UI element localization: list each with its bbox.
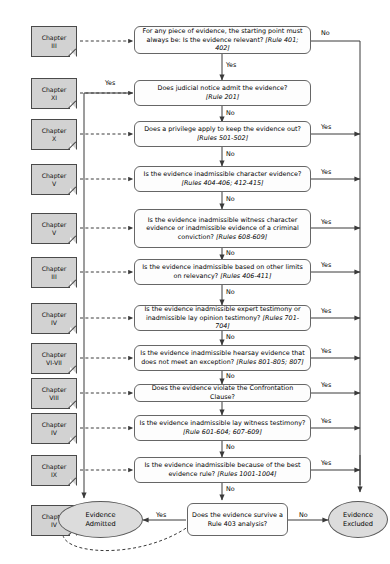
page-fold-edge-icon bbox=[68, 325, 77, 334]
edge-label-no-lay-witness: No bbox=[226, 443, 235, 451]
edge-label-no-character-evidence: No bbox=[226, 195, 235, 203]
decision-text: Does the evidence violate the Confrontat… bbox=[152, 384, 294, 401]
chapter-note-ch-10-privilege[interactable]: Chapter X bbox=[31, 119, 77, 150]
decision-character-evidence[interactable]: Is the evidence inadmissible character e… bbox=[134, 166, 311, 192]
chapter-note-ch-3-relevance[interactable]: Chapter III bbox=[31, 26, 77, 57]
chapter-label-line1: Chapter bbox=[42, 463, 67, 471]
decision-rule: [Rule 601-604; 607-609] bbox=[183, 428, 262, 436]
yes-exclusion-branches bbox=[311, 41, 360, 492]
chapter-note-ch-4-lay[interactable]: Chapter IV bbox=[31, 413, 77, 444]
terminal-label-line1: Evidence bbox=[85, 511, 115, 519]
chapter-label-line2: IX bbox=[51, 471, 57, 479]
chapter-label-line1: Chapter bbox=[42, 221, 67, 229]
decision-rule: [Rules 501-502] bbox=[197, 134, 248, 142]
edge-label-no-expert-opinion: No bbox=[226, 333, 235, 341]
edge-label-yes-character-evidence: Yes bbox=[321, 168, 331, 176]
chapter-note-ch-9-best[interactable]: Chapter IX bbox=[31, 455, 77, 486]
edge-label-yes-expert-opinion: Yes bbox=[321, 307, 331, 315]
terminal-evidence-admitted[interactable]: Evidence Admitted bbox=[58, 501, 143, 538]
flowchart-canvas: Chapter III Chapter XI Chapter X Chapter… bbox=[0, 0, 390, 564]
decision-text: Is the evidence inadmissible character e… bbox=[144, 170, 302, 178]
chapter-label-line2: IV bbox=[51, 319, 57, 327]
yes-admission-branch bbox=[84, 93, 133, 498]
edge-label-no-witness-character: No bbox=[226, 249, 235, 257]
decision-confrontation-clause[interactable]: Does the evidence violate the Confrontat… bbox=[134, 384, 311, 402]
chapter-label-line2: IV bbox=[51, 521, 57, 529]
decision-relevance[interactable]: For any piece of evidence, the starting … bbox=[134, 26, 311, 54]
decision-hearsay[interactable]: Is the evidence inadmissible hearsay evi… bbox=[134, 345, 311, 371]
chapter-label-line2: III bbox=[51, 42, 56, 50]
edge-label-yes-other-relevancy: Yes bbox=[321, 261, 331, 269]
edge-label-yes-relevance: Yes bbox=[226, 61, 236, 69]
edge-label-no-privilege: No bbox=[226, 150, 235, 158]
edge-label-yes-witness-character: Yes bbox=[321, 218, 331, 226]
chapter-label-line1: Chapter bbox=[42, 386, 67, 394]
chapter-label-line2: VI-VII bbox=[46, 359, 62, 367]
page-fold-edge-icon bbox=[68, 141, 77, 150]
edge-label-no-best-evidence: No bbox=[226, 485, 235, 493]
chapter-label-line2: IV bbox=[51, 429, 57, 437]
chapter-note-ch-5-character[interactable]: Chapter V bbox=[31, 164, 77, 195]
decision-witness-character[interactable]: Is the evidence inadmissible witness cha… bbox=[134, 209, 311, 248]
page-fold-edge-icon bbox=[68, 186, 77, 195]
decision-judicial-notice[interactable]: Does judicial notice admit the evidence?… bbox=[134, 80, 311, 106]
chapter-label-line2: V bbox=[52, 229, 56, 237]
page-fold-edge-icon bbox=[68, 477, 77, 486]
chapter-note-ch-5-witness[interactable]: Chapter V bbox=[31, 213, 77, 244]
edge-label-no-relevance: No bbox=[321, 29, 330, 37]
chapter-note-ch-8-confront[interactable]: Chapter VIII bbox=[31, 378, 77, 409]
decision-other-relevancy-limits[interactable]: Is the evidence inadmissible based on ot… bbox=[134, 259, 311, 285]
decision-privilege[interactable]: Does a privilege apply to keep the evide… bbox=[134, 121, 311, 147]
chapter-label-line2: XI bbox=[51, 94, 57, 102]
chapter-label-line1: Chapter bbox=[42, 311, 67, 319]
edge-label-yes-hearsay: Yes bbox=[321, 347, 331, 355]
edge-label-yes-rule403: Yes bbox=[156, 511, 166, 519]
chapter-note-ch-4-expert[interactable]: Chapter IV bbox=[31, 303, 77, 334]
page-fold-edge-icon bbox=[68, 48, 77, 57]
decision-text: Is the evidence inadmissible lay witness… bbox=[140, 419, 306, 427]
chapter-label-line2: X bbox=[52, 135, 56, 143]
decision-rule-403[interactable]: Does the evidence survive a Rule 403 ana… bbox=[187, 503, 288, 536]
edge-label-yes-judicial-notice: Yes bbox=[105, 79, 115, 87]
chapter-label-line1: Chapter bbox=[42, 265, 67, 273]
decision-expert-opinion[interactable]: Is the evidence inadmissible expert test… bbox=[134, 305, 311, 331]
page-fold-edge-icon bbox=[68, 365, 77, 374]
chapter-note-ch-3-limits[interactable]: Chapter III bbox=[31, 257, 77, 288]
decision-rule: [Rules 404-406; 412-415] bbox=[181, 179, 263, 187]
chapter-label-line1: Chapter bbox=[42, 86, 67, 94]
chapter-label-line2: VIII bbox=[49, 394, 59, 402]
page-fold-edge-icon bbox=[68, 400, 77, 409]
decision-text: Does the evidence survive a Rule 403 ana… bbox=[192, 511, 283, 528]
chapter-label-line2: V bbox=[52, 180, 56, 188]
edge-label-no-other-relevancy: No bbox=[226, 288, 235, 296]
page-fold-edge-icon bbox=[68, 100, 77, 109]
terminal-evidence-excluded[interactable]: Evidence Excluded bbox=[328, 501, 388, 538]
edge-label-yes-privilege: Yes bbox=[321, 123, 331, 131]
edge-label-no-rule403: No bbox=[299, 511, 308, 519]
chapter-note-ch-11-notice[interactable]: Chapter XI bbox=[31, 78, 77, 109]
chapter-label-line1: Chapter bbox=[42, 127, 67, 135]
chapter-label-line1: Chapter bbox=[42, 421, 67, 429]
chapter-note-ch-67-hearsay[interactable]: Chapter VI-VII bbox=[31, 343, 77, 374]
page-fold-edge-icon bbox=[68, 435, 77, 444]
chapter-label-line2: III bbox=[51, 273, 56, 281]
chapter-label-line1: Chapter bbox=[42, 34, 67, 42]
terminal-label-line2: Admitted bbox=[85, 520, 115, 528]
decision-rule: [Rules 608-609] bbox=[216, 233, 267, 241]
page-fold-edge-icon bbox=[68, 279, 77, 288]
decision-text: Does a privilege apply to keep the evide… bbox=[144, 125, 301, 133]
terminal-label-line2: Excluded bbox=[343, 520, 373, 528]
decision-lay-witness[interactable]: Is the evidence inadmissible lay witness… bbox=[134, 415, 311, 441]
decision-best-evidence[interactable]: Is the evidence inadmissible because of … bbox=[134, 457, 311, 483]
edge-label-yes-confrontation: Yes bbox=[321, 381, 331, 389]
edge-label-yes-best-evidence: Yes bbox=[321, 459, 331, 467]
decision-rule: [Rule 201] bbox=[206, 93, 239, 101]
decision-rule: [Rules 406-411] bbox=[220, 272, 271, 280]
edge-label-no-hearsay: No bbox=[226, 372, 235, 380]
chapter-label-line1: Chapter bbox=[42, 172, 67, 180]
decision-text: Does judicial notice admit the evidence? bbox=[158, 84, 288, 92]
decision-rule: [Rules 1001-1004] bbox=[217, 470, 276, 478]
decision-rule: [Rules 801-805; 807] bbox=[236, 358, 304, 366]
chapter-label-line1: Chapter bbox=[42, 351, 67, 359]
edge-label-no-judicial-notice: No bbox=[226, 109, 235, 117]
